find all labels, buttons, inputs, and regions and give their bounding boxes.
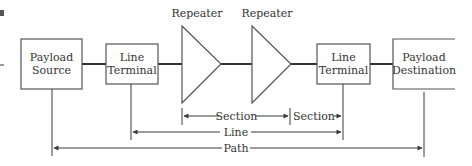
payload-destination-box: Payload Destination [392,39,456,89]
payload-source-label-1: Payload [30,51,73,64]
repeater-1: Repeater [171,7,223,103]
line-terminal-1-box: Line Terminal [106,44,158,84]
path-span: Path [54,142,422,155]
line-span: Line [133,126,341,139]
line-terminal-2-box: Line Terminal [317,44,370,84]
section-1-span: Section [184,110,288,123]
repeater-1-triangle-icon [182,26,221,103]
path-label: Path [224,142,249,155]
section-2-span: Section [293,110,341,123]
payload-destination-label-1: Payload [402,51,445,64]
line-terminal-1-label-2: Terminal [107,64,157,77]
repeater-2: Repeater [241,7,293,103]
line-terminal-1-label-1: Line [120,51,144,64]
repeater-2-triangle-icon [252,26,291,103]
repeater-2-label: Repeater [241,7,293,20]
repeater-1-label: Repeater [171,7,223,20]
line-terminal-2-label-2: Terminal [319,64,369,77]
payload-source-box: Payload Source [21,39,82,89]
payload-source-label-2: Source [32,64,71,77]
payload-destination-label-2: Destination [392,64,456,77]
line-label: Line [224,126,248,139]
section-1-label: Section [216,110,258,123]
section-2-label: Section [293,110,335,123]
line-terminal-2-label-1: Line [331,51,355,64]
sonet-diagram: Payload Source Line Terminal Repeater Re… [0,0,472,166]
corner-mark [0,10,4,16]
